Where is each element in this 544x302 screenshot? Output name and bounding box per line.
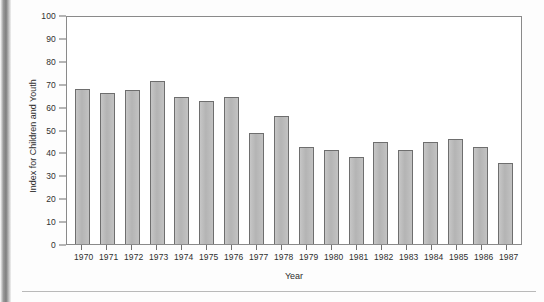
bar bbox=[249, 133, 264, 244]
x-axis-ticks bbox=[66, 245, 522, 250]
bar bbox=[349, 157, 364, 244]
x-axis-tick-mark bbox=[324, 245, 339, 250]
y-axis-tick-mark bbox=[59, 107, 66, 108]
bar bbox=[150, 81, 165, 244]
x-axis-tick-label: 1978 bbox=[274, 252, 289, 262]
bar bbox=[199, 101, 214, 244]
bar bbox=[299, 147, 314, 244]
x-axis-tick-mark bbox=[199, 245, 214, 250]
x-axis-tick-mark bbox=[374, 245, 389, 250]
x-axis-tick-mark bbox=[299, 245, 314, 250]
bar bbox=[75, 89, 90, 244]
x-axis-tick-label: 1983 bbox=[399, 252, 414, 262]
y-axis-tick-mark bbox=[59, 130, 66, 131]
bar-series bbox=[67, 17, 521, 244]
y-axis-tick-mark bbox=[59, 84, 66, 85]
y-axis-title: Index for Children and Youth bbox=[28, 56, 38, 216]
bar bbox=[473, 147, 488, 244]
bar bbox=[274, 116, 289, 244]
bar bbox=[174, 97, 189, 244]
bar bbox=[498, 163, 513, 244]
bar bbox=[448, 139, 463, 244]
x-axis-tick-label: 1972 bbox=[124, 252, 139, 262]
x-axis-labels: 1970197119721973197419751976197719781979… bbox=[66, 252, 522, 262]
y-axis-tick-mark bbox=[59, 61, 66, 62]
x-axis-tick-label: 1973 bbox=[149, 252, 164, 262]
y-axis-tick-label: 0 bbox=[34, 240, 56, 250]
y-axis-tick-label: 10 bbox=[34, 217, 56, 227]
x-axis-tick-mark bbox=[274, 245, 289, 250]
y-axis-tick-mark bbox=[59, 16, 66, 17]
y-axis: 1009080706050403020100 bbox=[36, 10, 66, 251]
y-axis-tick-mark bbox=[59, 199, 66, 200]
y-axis-tick-label: 100 bbox=[34, 11, 56, 21]
x-axis-tick-mark bbox=[99, 245, 114, 250]
x-axis-tick-mark bbox=[249, 245, 264, 250]
x-axis-tick-label: 1970 bbox=[74, 252, 89, 262]
x-axis-tick-label: 1980 bbox=[324, 252, 339, 262]
x-axis-tick-mark bbox=[424, 245, 439, 250]
bar bbox=[324, 150, 339, 244]
x-axis-tick-mark bbox=[74, 245, 89, 250]
x-axis-tick-label: 1974 bbox=[174, 252, 189, 262]
x-axis-tick-mark bbox=[449, 245, 464, 250]
bar bbox=[398, 150, 413, 244]
x-axis-title: Year bbox=[66, 271, 522, 281]
bar bbox=[125, 90, 140, 244]
x-axis-tick-mark bbox=[499, 245, 514, 250]
y-axis-tick-mark bbox=[59, 38, 66, 39]
x-axis-tick-label: 1984 bbox=[424, 252, 439, 262]
x-axis-tick-mark bbox=[174, 245, 189, 250]
x-axis-tick-label: 1987 bbox=[499, 252, 514, 262]
x-axis-tick-mark bbox=[124, 245, 139, 250]
x-axis-tick-label: 1971 bbox=[99, 252, 114, 262]
y-axis-tick-mark bbox=[59, 222, 66, 223]
x-axis-tick-label: 1982 bbox=[374, 252, 389, 262]
bar bbox=[100, 93, 115, 244]
x-axis-tick-label: 1981 bbox=[349, 252, 364, 262]
x-axis-tick-mark bbox=[149, 245, 164, 250]
x-axis-tick-label: 1986 bbox=[474, 252, 489, 262]
x-axis-tick-label: 1979 bbox=[299, 252, 314, 262]
y-axis-tick-mark bbox=[59, 153, 66, 154]
x-axis-tick-mark bbox=[474, 245, 489, 250]
bar bbox=[423, 142, 438, 244]
y-axis-tick-mark bbox=[59, 176, 66, 177]
x-axis-tick-mark bbox=[399, 245, 414, 250]
bar bbox=[373, 142, 388, 244]
x-axis-tick-label: 1976 bbox=[224, 252, 239, 262]
y-axis-tick-label: 90 bbox=[34, 34, 56, 44]
bar-chart: 1009080706050403020100 Index for Childre… bbox=[0, 0, 544, 302]
x-axis-tick-label: 1985 bbox=[449, 252, 464, 262]
bar bbox=[224, 97, 239, 244]
x-axis-tick-mark bbox=[349, 245, 364, 250]
plot-area bbox=[66, 16, 522, 245]
x-axis-tick-mark bbox=[224, 245, 239, 250]
x-axis-tick-label: 1977 bbox=[249, 252, 264, 262]
y-axis-tick-mark bbox=[59, 245, 66, 246]
x-axis-tick-label: 1975 bbox=[199, 252, 214, 262]
